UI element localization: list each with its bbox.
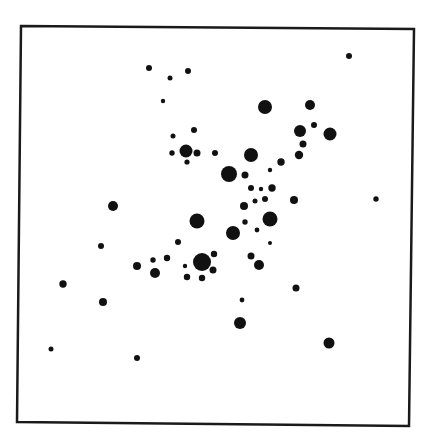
dot bbox=[211, 251, 217, 257]
dot bbox=[277, 158, 284, 165]
dot bbox=[324, 338, 335, 349]
scatter-figure bbox=[0, 0, 429, 443]
dot bbox=[49, 347, 54, 352]
dot bbox=[180, 145, 193, 158]
dot bbox=[150, 257, 155, 262]
dot bbox=[324, 128, 337, 141]
dot bbox=[300, 141, 307, 148]
dot bbox=[248, 185, 254, 191]
dot bbox=[210, 267, 217, 274]
dot bbox=[134, 355, 140, 361]
dot bbox=[290, 196, 298, 204]
figure-canvas bbox=[0, 0, 429, 443]
dot bbox=[262, 196, 268, 202]
dot bbox=[305, 100, 315, 110]
dot bbox=[169, 150, 174, 155]
dot bbox=[168, 76, 173, 81]
dot bbox=[242, 172, 249, 179]
dot-layer bbox=[49, 53, 379, 361]
dot bbox=[171, 134, 176, 139]
dot bbox=[175, 239, 181, 245]
dot bbox=[268, 168, 272, 172]
dot bbox=[373, 196, 378, 201]
dot bbox=[185, 68, 191, 74]
dot bbox=[244, 148, 258, 162]
dot bbox=[59, 280, 66, 287]
dot bbox=[254, 260, 264, 270]
dot bbox=[253, 199, 258, 204]
dot bbox=[164, 255, 170, 261]
plot-frame bbox=[17, 26, 414, 426]
dot bbox=[212, 150, 218, 156]
dot bbox=[255, 228, 260, 233]
dot bbox=[133, 262, 141, 270]
dot bbox=[221, 166, 237, 182]
dot bbox=[191, 127, 197, 133]
dot bbox=[108, 201, 118, 211]
dot bbox=[226, 226, 240, 240]
dot bbox=[234, 317, 246, 329]
dot bbox=[184, 274, 190, 280]
dot bbox=[194, 150, 201, 157]
dot bbox=[161, 99, 165, 103]
dot bbox=[184, 159, 189, 164]
dot bbox=[240, 298, 245, 303]
dot bbox=[268, 184, 275, 191]
dot bbox=[99, 298, 107, 306]
dot bbox=[150, 268, 160, 278]
dot bbox=[294, 125, 306, 137]
dot bbox=[183, 264, 187, 268]
dot bbox=[258, 100, 272, 114]
dot bbox=[293, 285, 300, 292]
dot bbox=[242, 219, 247, 224]
dot bbox=[346, 53, 352, 59]
dot bbox=[311, 122, 317, 128]
dot bbox=[295, 151, 303, 159]
dot bbox=[193, 253, 211, 271]
dot bbox=[146, 65, 152, 71]
dot bbox=[248, 253, 255, 260]
dot bbox=[263, 212, 278, 227]
dot bbox=[240, 202, 248, 210]
dot bbox=[199, 275, 205, 281]
dot bbox=[98, 243, 104, 249]
dot bbox=[190, 214, 205, 229]
dot bbox=[259, 187, 263, 191]
dot bbox=[268, 241, 272, 245]
